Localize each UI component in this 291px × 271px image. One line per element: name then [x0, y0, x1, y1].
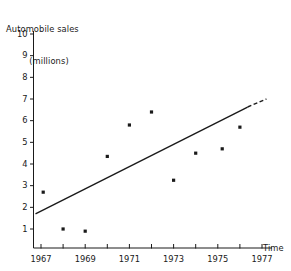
x-tick-label: 1971	[109, 254, 149, 264]
x-axis-title: Time	[263, 243, 284, 254]
y-tick-label: 4	[12, 159, 28, 169]
y-tick-label: 10	[12, 29, 28, 39]
x-tick-label: 1967	[21, 254, 61, 264]
y-tick-label: 7	[12, 94, 28, 104]
plot-area	[0, 0, 291, 271]
y-tick-label: 5	[12, 137, 28, 147]
y-tick-label: 3	[12, 180, 28, 190]
y-tick-label: 9	[12, 50, 28, 60]
scatter-chart: Automobile sales (millions) 12345678910 …	[0, 0, 291, 271]
y-tick-label: 2	[12, 202, 28, 212]
trend-line	[35, 99, 266, 214]
y-tick-label: 1	[12, 224, 28, 234]
data-point-markers	[42, 110, 242, 232]
x-tick-label: 1973	[154, 254, 194, 264]
x-tick-label: 1975	[198, 254, 238, 264]
x-tick-label: 1969	[65, 254, 105, 264]
y-tick-label: 6	[12, 115, 28, 125]
axis-lines	[34, 31, 273, 248]
x-tick-label: 1977	[242, 254, 282, 264]
y-tick-label: 8	[12, 72, 28, 82]
